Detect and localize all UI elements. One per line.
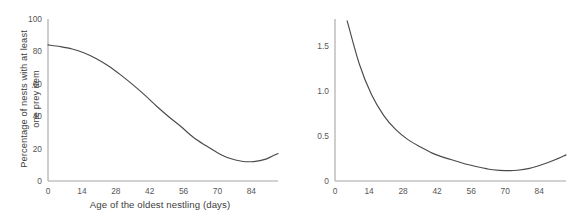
x-tick-label: 84 <box>535 186 545 196</box>
x-tick-label: 70 <box>501 186 511 196</box>
plot-area-left: 0204060801000142842567084 <box>0 0 286 221</box>
x-tick-label: 56 <box>467 186 477 196</box>
x-tick-label: 42 <box>145 186 155 196</box>
plot-area-right: 00.51.01.50142842567084 <box>286 0 572 221</box>
chart-panel-left: 0204060801000142842567084 Percentage of … <box>0 0 286 221</box>
data-curve <box>347 21 566 171</box>
y-tick-label: 1.5 <box>317 41 329 51</box>
x-tick-label: 42 <box>432 186 442 196</box>
chart-panel-right: 00.51.01.50142842567084 Mean number of p… <box>286 0 572 221</box>
x-tick-label: 0 <box>333 186 338 196</box>
y-axis-label-left: Percentage of nests with at least one pr… <box>19 15 42 183</box>
x-tick-label: 28 <box>111 186 121 196</box>
data-curve <box>48 45 278 162</box>
x-tick-label: 56 <box>179 186 189 196</box>
x-axis-label-left: Age of the oldest nestling (days) <box>40 199 280 210</box>
y-tick-label: 0.5 <box>317 131 329 141</box>
x-tick-label: 0 <box>46 186 51 196</box>
y-tick-label: 0 <box>324 176 329 186</box>
x-tick-label: 14 <box>77 186 87 196</box>
x-tick-label: 70 <box>213 186 223 196</box>
y-tick-label: 1.0 <box>317 86 329 96</box>
figure-two-panel-line-charts: 0204060801000142842567084 Percentage of … <box>0 0 572 221</box>
x-tick-label: 84 <box>247 186 257 196</box>
x-tick-label: 14 <box>364 186 374 196</box>
x-tick-label: 28 <box>398 186 408 196</box>
